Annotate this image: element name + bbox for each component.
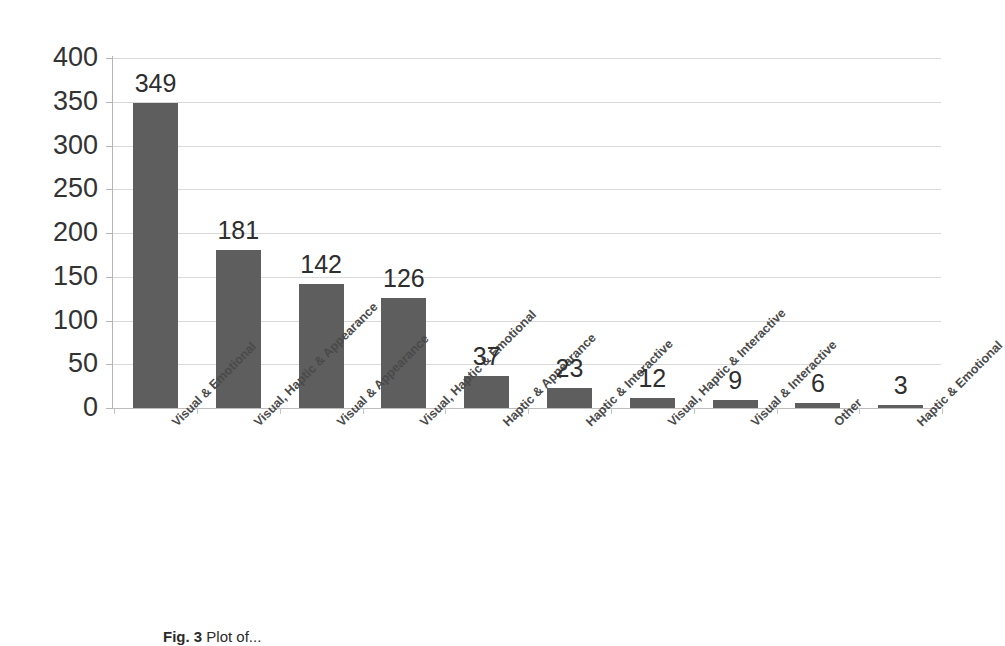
gridline: [113, 58, 941, 59]
gridline: [113, 189, 941, 190]
y-axis-tick-label: 400: [34, 44, 98, 71]
bar-value-label: 6: [773, 371, 863, 396]
y-axis-tick: [106, 189, 113, 190]
x-axis-tick: [777, 408, 778, 414]
x-axis-tick: [611, 408, 612, 414]
y-axis-tick: [106, 58, 113, 59]
y-axis-tick: [106, 364, 113, 365]
y-axis-tick: [106, 233, 113, 234]
y-axis-tick-label: 300: [34, 132, 98, 159]
caption-text: Plot of...: [206, 628, 261, 645]
bar-value-label: 23: [525, 356, 615, 381]
x-axis-tick: [528, 408, 529, 414]
y-axis-tick: [106, 102, 113, 103]
bar-value-label: 349: [111, 71, 201, 96]
gridline: [113, 102, 941, 103]
x-axis-tick: [363, 408, 364, 414]
y-axis-tick-label: 50: [34, 350, 98, 377]
y-axis-tick-label: 100: [34, 307, 98, 334]
y-axis-tick: [106, 277, 113, 278]
caption-figure-number: Fig. 3: [163, 628, 202, 645]
y-axis-tick-label: 200: [34, 219, 98, 246]
bar-value-label: 181: [193, 218, 283, 243]
bar-value-label: 142: [276, 252, 366, 277]
x-axis-tick: [445, 408, 446, 414]
y-axis-tick-labels: 400350300250200150100500: [30, 0, 98, 642]
y-axis-tick: [106, 321, 113, 322]
y-axis-tick-label: 150: [34, 263, 98, 290]
bar-value-label: 3: [856, 373, 946, 398]
x-axis-tick: [197, 408, 198, 414]
x-axis-tick: [694, 408, 695, 414]
x-axis-tick: [942, 408, 943, 414]
x-axis-tick: [280, 408, 281, 414]
figure-caption: Fig. 3 Plot of...: [163, 628, 261, 646]
x-axis-tick: [114, 408, 115, 414]
y-axis-tick-label: 250: [34, 175, 98, 202]
bar[interactable]: [795, 403, 840, 408]
y-axis-tick: [106, 408, 113, 409]
x-axis-tick: [859, 408, 860, 414]
bar[interactable]: [878, 405, 923, 408]
bar[interactable]: [630, 398, 675, 409]
bar[interactable]: [133, 103, 178, 408]
y-axis-tick-label: 0: [34, 394, 98, 421]
y-axis-tick: [106, 146, 113, 147]
y-axis-tick-label: 350: [34, 88, 98, 115]
bar[interactable]: [547, 388, 592, 408]
bar-value-label: 12: [607, 366, 697, 391]
bar-value-label: 37: [442, 344, 532, 369]
bar[interactable]: [713, 400, 758, 408]
bar-value-label: 126: [359, 266, 449, 291]
bar-value-label: 9: [690, 368, 780, 393]
gridline: [113, 146, 941, 147]
